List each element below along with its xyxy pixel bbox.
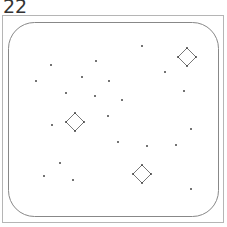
diamond-vertex <box>195 56 197 58</box>
point-dot <box>59 162 61 164</box>
diamond-vertex <box>186 65 188 67</box>
diamond-vertex <box>150 173 152 175</box>
diamond-marker <box>133 165 151 183</box>
diamond-vertex <box>141 182 143 184</box>
point-dot <box>146 145 148 147</box>
diamond-vertex <box>132 173 134 175</box>
point-dot <box>65 92 67 94</box>
diamond-vertex <box>65 121 67 123</box>
point-dot <box>107 115 109 117</box>
diamond-vertex <box>141 164 143 166</box>
diamond-vertex <box>177 56 179 58</box>
point-dot <box>121 99 123 101</box>
point-dot <box>35 80 37 82</box>
point-dot <box>175 144 177 146</box>
point-dot <box>81 76 83 78</box>
diamond-vertex <box>83 121 85 123</box>
diamond-group <box>65 47 197 184</box>
diamond-vertex <box>186 47 188 49</box>
point-dot <box>117 141 119 143</box>
point-dot <box>141 45 143 47</box>
point-dot <box>190 188 192 190</box>
point-dot <box>51 124 53 126</box>
diamond-marker <box>178 48 196 66</box>
point-dot <box>183 90 185 92</box>
point-dot <box>50 64 52 66</box>
outer-frame <box>3 16 224 223</box>
diagram-canvas <box>0 0 227 227</box>
rounded-field <box>9 23 219 217</box>
diamond-vertex <box>74 130 76 132</box>
point-dot <box>190 128 192 130</box>
point-dot <box>94 95 96 97</box>
point-dot <box>108 80 110 82</box>
point-dot <box>95 60 97 62</box>
point-dot <box>72 179 74 181</box>
point-dot <box>164 71 166 73</box>
diamond-vertex <box>74 112 76 114</box>
diamond-marker <box>66 113 84 131</box>
point-dot <box>43 175 45 177</box>
dot-group <box>35 45 192 190</box>
